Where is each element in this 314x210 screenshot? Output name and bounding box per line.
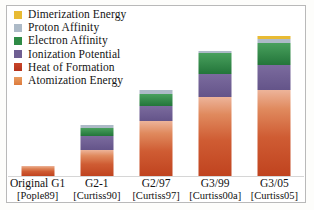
legend-swatch-icon: [14, 24, 22, 32]
legend-item: Dimerization Energy: [14, 8, 194, 21]
bar-segment: [21, 166, 54, 176]
legend-item: Electron Affinity: [14, 34, 194, 47]
legend-item: Atomization Energy: [14, 74, 194, 87]
bar-segment: [258, 90, 291, 176]
legend-item: Heat of Formation: [14, 61, 194, 74]
legend-label: Electron Affinity: [28, 34, 108, 47]
x-tick-name: G3/05: [239, 177, 309, 190]
stacked-bar[interactable]: [21, 166, 54, 176]
legend-label: Proton Affinity: [28, 21, 99, 34]
stacked-bar[interactable]: [80, 125, 113, 176]
bar-segment: [139, 106, 172, 121]
bar-segment: [80, 150, 113, 176]
legend: Dimerization EnergyProton AffinityElectr…: [14, 8, 194, 87]
bar-segment: [258, 43, 291, 65]
legend-label: Ionization Potential: [28, 48, 120, 61]
bar-segment: [199, 53, 232, 74]
bar-segment: [199, 97, 232, 176]
x-axis-labels: Original G1[Pople89]G2-1[Curtiss90]G2/97…: [8, 177, 304, 207]
bar-segment: [139, 94, 172, 106]
legend-item: Proton Affinity: [14, 21, 194, 34]
stacked-bar[interactable]: [199, 51, 232, 176]
legend-swatch-icon: [14, 37, 22, 45]
legend-label: Heat of Formation: [28, 61, 115, 74]
bar-segment: [199, 74, 232, 97]
legend-label: Atomization Energy: [28, 74, 123, 87]
bar-segment: [139, 121, 172, 176]
bar-segment: [80, 136, 113, 150]
bar-group: [245, 6, 304, 176]
figure: Dimerization EnergyProton AffinityElectr…: [0, 0, 314, 210]
legend-label: Dimerization Energy: [28, 8, 126, 21]
legend-item: Ionization Potential: [14, 48, 194, 61]
legend-swatch-icon: [14, 50, 22, 58]
legend-swatch-icon: [14, 11, 22, 19]
x-tick-label: G3/05[Curtiss05]: [239, 177, 309, 202]
stacked-bar[interactable]: [258, 36, 291, 176]
x-tick-citation: [Curtiss05]: [239, 190, 309, 202]
legend-swatch-icon: [14, 77, 22, 85]
bar-segment: [80, 128, 113, 136]
bar-segment: [258, 65, 291, 90]
bar-group: [186, 6, 245, 176]
stacked-bar[interactable]: [139, 90, 172, 176]
legend-swatch-icon: [14, 63, 22, 71]
